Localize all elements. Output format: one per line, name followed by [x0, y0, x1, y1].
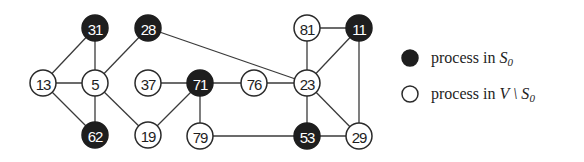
- node-label: 11: [352, 21, 366, 38]
- nodes: 31288111135377176236219795329: [30, 15, 372, 149]
- node-label: 23: [300, 76, 315, 93]
- node-label: 81: [300, 21, 315, 38]
- node-28: 28: [135, 15, 161, 41]
- legend-item-v-minus-s0: process in V \ S0: [402, 85, 535, 104]
- dotted-circle-icon: [402, 86, 418, 102]
- node-31: 31: [82, 15, 108, 41]
- node-label: 53: [300, 129, 315, 146]
- legend-item-s0: process in S0: [402, 49, 513, 68]
- node-71: 71: [187, 70, 213, 96]
- node-label: 76: [247, 76, 262, 93]
- node-79: 79: [187, 123, 213, 149]
- legend-marker-v-minus-s0: [402, 86, 418, 102]
- node-81: 81: [294, 15, 320, 41]
- node-23: 23: [294, 70, 320, 96]
- node-76: 76: [241, 70, 267, 96]
- node-62: 62: [82, 122, 108, 148]
- node-5: 5: [82, 70, 108, 96]
- node-label: 71: [193, 76, 208, 93]
- process-graph-diagram: 31288111135377176236219795329 process in…: [0, 0, 584, 162]
- node-label: 29: [352, 129, 367, 146]
- legend-label: process in S0: [431, 49, 513, 68]
- legend-label: process in V \ S0: [431, 85, 535, 104]
- node-53: 53: [294, 123, 320, 149]
- node-13: 13: [30, 70, 56, 96]
- node-label: 62: [88, 128, 103, 145]
- node-label: 28: [141, 21, 156, 38]
- node-37: 37: [135, 70, 161, 96]
- hatched-circle-icon: [402, 50, 418, 66]
- node-label: 5: [91, 76, 99, 93]
- legend-marker-s0: [402, 50, 418, 66]
- node-11: 11: [346, 15, 372, 41]
- node-label: 31: [88, 21, 103, 38]
- legend: process in S0process in V \ S0: [402, 49, 535, 104]
- node-label: 13: [36, 76, 51, 93]
- edge-28-23: [148, 28, 307, 83]
- node-19: 19: [135, 122, 161, 148]
- node-29: 29: [346, 123, 372, 149]
- node-label: 37: [141, 76, 156, 93]
- node-label: 79: [193, 129, 208, 146]
- node-label: 19: [141, 128, 156, 145]
